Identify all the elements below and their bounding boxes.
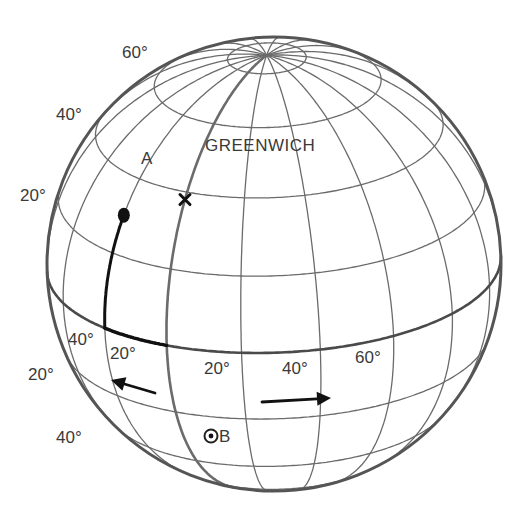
bold-equator-segment <box>105 328 167 345</box>
eastward-arrow-head-icon <box>317 392 331 406</box>
direction-arrows <box>111 377 331 406</box>
lon-label-20w: 20° <box>110 345 136 362</box>
parallel-line <box>154 48 381 128</box>
bold-meridian-segment <box>105 215 124 328</box>
lat-label-60n: 60° <box>122 44 148 61</box>
westward-arrow-shaft <box>124 384 155 393</box>
lon-label-40w: 40° <box>68 331 94 348</box>
lon-label-20e: 20° <box>204 360 230 377</box>
greenwich-label: GREENWICH <box>205 137 315 154</box>
globe-diagram: 60° 40° 20° 20° 40° 40° 20° 20° 40° 60° … <box>0 0 524 526</box>
lon-label-40e: 40° <box>282 360 308 377</box>
meridian-line <box>267 55 453 465</box>
lon-label-60e: 60° <box>355 349 381 366</box>
meridian-line <box>267 55 321 489</box>
globe-outline <box>47 37 501 491</box>
lat-label-20s: 20° <box>28 366 54 383</box>
globe-graticule <box>0 0 524 526</box>
lat-label-40s: 40° <box>56 429 82 446</box>
parallel-line <box>58 174 484 277</box>
point-a-dot-icon <box>118 208 130 223</box>
equator-line <box>47 256 501 353</box>
graticule-lines <box>47 37 501 491</box>
point-b-dot-icon <box>209 434 214 439</box>
point-b-label: B <box>219 428 231 445</box>
eastward-arrow-shaft <box>262 399 317 402</box>
point-a-label: A <box>141 150 153 167</box>
lat-label-40n: 40° <box>56 106 82 123</box>
meridian-line <box>241 55 268 491</box>
meridian-line <box>63 55 267 428</box>
bold-route-path <box>105 215 167 345</box>
meridian-line <box>105 55 267 474</box>
lat-label-20n: 20° <box>20 187 46 204</box>
